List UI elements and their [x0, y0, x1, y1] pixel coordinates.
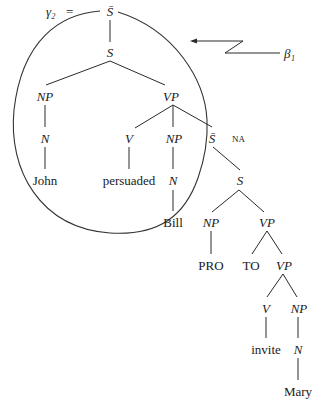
word-bill: Bill [163, 215, 183, 230]
node-n3: N [293, 342, 304, 357]
node-vp2: VP [259, 215, 275, 230]
tree-name-label: γ₂ [46, 4, 56, 19]
node-np2: NP [165, 131, 183, 146]
word-invite: invite [251, 342, 281, 357]
node-vp3: VP [276, 258, 292, 273]
equals-sign: = [66, 4, 73, 19]
node-vp1: VP [163, 89, 179, 104]
word-mary: Mary [284, 384, 313, 399]
word-pro: PRO [198, 258, 223, 273]
node-sbar2: S̄ [209, 131, 216, 146]
node-v1: V [125, 131, 135, 146]
word-john: John [33, 173, 58, 188]
node-s2: S [237, 173, 244, 188]
node-np4: NP [290, 301, 308, 316]
node-np1: NP [36, 89, 54, 104]
null-adjunction-label: NA [232, 134, 245, 144]
node-n2: N [168, 173, 179, 188]
word-to: TO [242, 258, 259, 273]
node-root-sbar: S̄ [107, 4, 114, 19]
word-persuaded: persuaded [103, 173, 156, 188]
auxiliary-beta1-label: β₁ [283, 46, 295, 61]
node-v2: V [262, 301, 272, 316]
tag-derivation-tree-diagram: γ₂ = S̄ S β₁ NP VP N V NP S̄ NA John per… [0, 0, 314, 403]
tree-edges [45, 20, 298, 380]
node-n1: N [40, 131, 51, 146]
beta1-pointer-arrow [190, 39, 280, 54]
node-np3: NP [202, 215, 220, 230]
node-s1: S [107, 45, 114, 60]
